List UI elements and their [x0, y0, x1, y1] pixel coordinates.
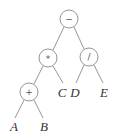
expression-tree-diagram: − * / + C D E A B	[0, 0, 118, 138]
edge-add-a	[15, 100, 24, 118]
leaf-e: E	[99, 85, 108, 100]
node-root-minus: −	[60, 10, 78, 28]
edge-root-div	[74, 27, 84, 49]
node-plus: +	[20, 83, 38, 101]
edge-div-d	[76, 65, 84, 83]
node-multiply: *	[39, 49, 57, 67]
leaf-c: C	[58, 85, 67, 100]
edge-add-b	[34, 100, 43, 118]
node-label: −	[65, 14, 73, 24]
leaf-d: D	[69, 85, 80, 100]
node-label: *	[46, 54, 51, 64]
edge-div-e	[94, 65, 103, 83]
node-divide: /	[80, 48, 98, 66]
node-label: +	[25, 87, 33, 97]
tree-edges	[15, 27, 103, 118]
leaf-b: B	[40, 119, 48, 134]
edge-mul-add	[34, 66, 43, 84]
leaf-a: A	[9, 119, 18, 134]
edge-root-mul	[53, 27, 64, 50]
edge-mul-c	[53, 66, 63, 83]
